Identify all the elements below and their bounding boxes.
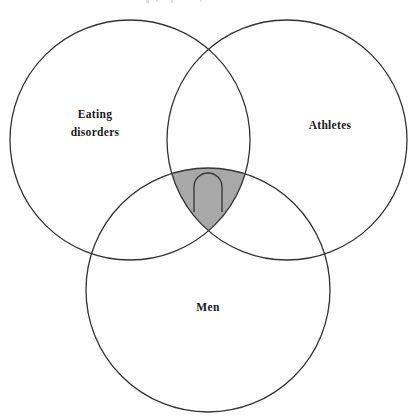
label-eating-disorders-line2: disorders — [71, 126, 120, 138]
venn-canvas: Eating disorders Athletes Men — [0, 0, 419, 419]
venn-diagram-figure: Eating disorders Athletes Men — [0, 0, 419, 419]
label-eating-disorders-line1: Eating — [78, 108, 112, 121]
label-athletes: Athletes — [309, 119, 352, 131]
label-men: Men — [196, 301, 220, 313]
